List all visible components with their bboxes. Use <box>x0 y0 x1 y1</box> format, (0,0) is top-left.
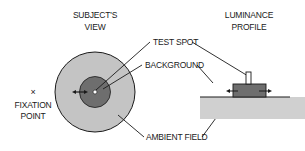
subjects-view-heading-line1: SUBJECT'S <box>73 10 118 20</box>
luminance-profile-heading-line2: PROFILE <box>232 22 268 32</box>
fixation-cross-icon: × <box>30 87 35 97</box>
ambient-field-label: AMBIENT FIELD <box>146 132 208 142</box>
test-spot-circle <box>93 90 97 94</box>
luminance-profile-heading-line1: LUMINANCE <box>225 10 274 20</box>
profile-ambient-block <box>200 97 305 119</box>
test-spot-label: TEST SPOT <box>153 37 198 47</box>
background-label: BACKGROUND <box>145 60 204 70</box>
background-profile-leader <box>197 65 213 83</box>
subjects-view-heading-line2: VIEW <box>85 22 106 32</box>
profile-test-spot-block <box>246 72 251 84</box>
arrow-right-icon <box>268 89 272 93</box>
test-spot-profile-leader <box>192 42 248 76</box>
fixation-label-line1: FIXATION <box>15 100 52 110</box>
fixation-label-line2: POINT <box>21 111 46 121</box>
ambient-field-leader <box>118 115 144 137</box>
arrow-left-icon <box>226 89 230 93</box>
diagram-canvas: SUBJECT'S VIEW LUMINANCE PROFILE × FIXAT… <box>0 0 305 151</box>
